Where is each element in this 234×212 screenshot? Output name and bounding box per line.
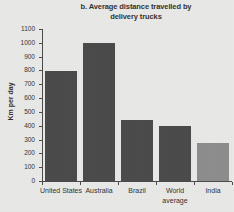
x-axis-tick — [118, 182, 119, 185]
y-axis-line — [42, 29, 43, 182]
plot-area: 010020030040050060070080090010001100 Uni… — [42, 29, 232, 182]
y-axis-tick-label: 1100 — [21, 26, 35, 33]
x-axis-label-india: India — [185, 186, 234, 196]
bar-world-average — [159, 126, 191, 181]
chart-figure: b. Average distance travelled by deliver… — [0, 0, 234, 212]
y-axis-tick: 400 — [39, 126, 42, 127]
y-axis-tick: 1100 — [39, 29, 42, 30]
x-axis-label-line-2: average — [147, 196, 203, 206]
y-axis-tick-label: 1000 — [21, 40, 35, 47]
y-axis-tick-label: 300 — [24, 136, 35, 143]
y-axis-tick: 200 — [39, 153, 42, 154]
y-axis-tick: 700 — [39, 84, 42, 85]
x-axis-tick — [194, 182, 195, 185]
bar-australia — [83, 43, 115, 181]
y-axis-tick-label: 700 — [24, 81, 35, 88]
y-axis-tick: 100 — [39, 167, 42, 168]
bar-india — [197, 143, 229, 181]
bar-brazil — [121, 120, 153, 181]
y-axis-tick-label: 800 — [24, 67, 35, 74]
y-axis-tick-label: 900 — [24, 53, 35, 60]
y-axis-tick-label: 100 — [24, 164, 35, 171]
x-axis-tick — [156, 182, 157, 185]
chart-title: b. Average distance travelled by deliver… — [40, 2, 232, 22]
y-axis-tick: 1000 — [39, 43, 42, 44]
bar-united-states — [45, 71, 77, 181]
x-axis-tick — [80, 182, 81, 185]
x-axis-line — [42, 181, 232, 182]
y-axis-tick: 900 — [39, 57, 42, 58]
x-axis-tick-origin — [42, 182, 43, 185]
y-axis-tick: 300 — [39, 140, 42, 141]
y-axis-tick-label: 600 — [24, 95, 35, 102]
y-axis-title: Km per day — [7, 62, 14, 142]
y-axis-tick: 800 — [39, 70, 42, 71]
x-axis-tick — [232, 182, 233, 185]
x-axis-label-line-1: India — [205, 187, 220, 194]
y-axis-tick-label: 200 — [24, 150, 35, 157]
y-axis-tick: 500 — [39, 112, 42, 113]
y-axis-tick: 600 — [39, 98, 42, 99]
y-axis-tick-label: 0 — [31, 178, 35, 185]
y-axis-tick-label: 500 — [24, 109, 35, 116]
x-axis-label-line-1: World — [166, 187, 184, 194]
chart-title-line-1: b. Average distance travelled by — [81, 2, 192, 11]
x-axis-label-line-1: Brazil — [128, 187, 146, 194]
chart-title-line-2: delivery trucks — [40, 12, 232, 22]
y-axis-tick-label: 400 — [24, 122, 35, 129]
